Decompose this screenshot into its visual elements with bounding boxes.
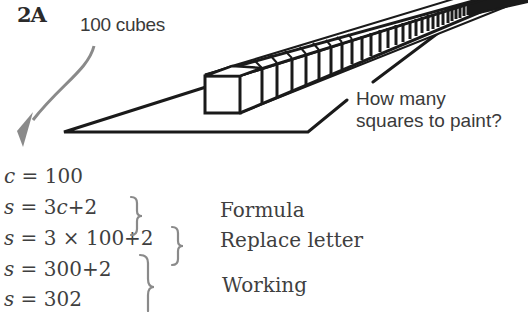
cube-row-illustration — [0, 0, 528, 160]
annotation-formula: Formula — [220, 198, 305, 222]
annotation-working: Working — [222, 273, 307, 297]
brace-formula-icon — [131, 197, 142, 235]
question-line-2: squares to paint? — [356, 110, 502, 132]
annotation-replace-letter: Replace letter — [220, 228, 363, 252]
question-line-1: How many — [356, 88, 502, 110]
brace-replace-icon — [172, 227, 183, 265]
brace-working-icon — [140, 255, 154, 311]
grouping-braces — [0, 150, 200, 312]
question-text: How many squares to paint? — [356, 88, 502, 132]
